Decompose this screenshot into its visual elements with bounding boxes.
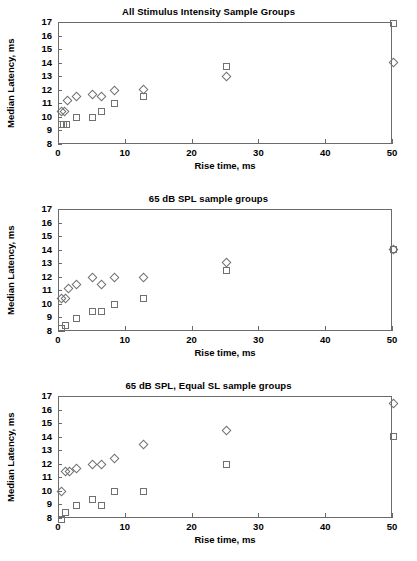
data-point-square: [89, 114, 96, 121]
data-point-square: [223, 267, 230, 274]
data-point-square: [98, 502, 105, 509]
data-point-diamond: [109, 453, 119, 463]
x-tick-label: 40: [311, 147, 339, 158]
x-tick-label: 30: [244, 334, 272, 345]
x-tick-mark: [392, 326, 393, 331]
data-point-square: [390, 433, 397, 440]
y-axis-label: Median Latency, ms: [2, 22, 18, 144]
y-tick-mark: [58, 277, 62, 278]
y-tick-mark: [58, 263, 62, 264]
data-point-square: [140, 295, 147, 302]
data-point-square: [89, 496, 96, 503]
x-tick-label: 20: [178, 147, 206, 158]
plot-wrapper: Median Latency, ms 891011121314151617 01…: [0, 374, 417, 561]
y-tick-mark: [58, 209, 62, 210]
y-tick-mark: [58, 63, 62, 64]
x-tick-mark: [58, 139, 59, 144]
data-point-square: [62, 322, 69, 329]
y-tick-mark: [58, 103, 62, 104]
y-tick-label: 15: [36, 43, 52, 54]
y-tick-label: 9: [36, 124, 52, 135]
x-tick-label: 30: [244, 521, 272, 532]
y-tick-label: 12: [36, 84, 52, 95]
y-tick-mark: [58, 49, 62, 50]
x-tick-label: 20: [178, 521, 206, 532]
y-tick-mark: [58, 410, 62, 411]
y-tick-label: 11: [36, 284, 52, 295]
data-point-diamond: [388, 399, 398, 409]
plot-area: [58, 22, 392, 144]
x-tick-label: 0: [44, 147, 72, 158]
x-tick-mark: [192, 513, 193, 518]
x-tick-label: 30: [244, 147, 272, 158]
x-tick-mark: [325, 326, 326, 331]
y-tick-label: 14: [36, 57, 52, 68]
y-tick-mark: [58, 317, 62, 318]
y-tick-mark: [58, 76, 62, 77]
data-point-diamond: [56, 487, 66, 497]
y-tick-label: 9: [36, 311, 52, 322]
data-point-square: [73, 114, 80, 121]
x-tick-label: 0: [44, 521, 72, 532]
plot-wrapper: Median Latency, ms 891011121314151617 01…: [0, 187, 417, 374]
data-point-square: [140, 93, 147, 100]
data-point-square: [73, 502, 80, 509]
data-point-square: [111, 301, 118, 308]
y-tick-mark: [58, 396, 62, 397]
y-tick-mark: [58, 130, 62, 131]
data-point-diamond: [97, 280, 107, 290]
x-tick-label: 10: [111, 147, 139, 158]
panel-0: All Stimulus Intensity Sample Groups Med…: [0, 0, 417, 187]
data-point-square: [223, 461, 230, 468]
x-tick-mark: [325, 513, 326, 518]
data-point-diamond: [138, 273, 148, 283]
x-tick-mark: [125, 326, 126, 331]
x-axis-label: Rise time, ms: [58, 534, 392, 545]
y-tick-label: 11: [36, 471, 52, 482]
x-tick-label: 20: [178, 334, 206, 345]
y-tick-label: 16: [36, 404, 52, 415]
y-tick-mark: [58, 331, 62, 332]
y-tick-mark: [58, 504, 62, 505]
y-tick-mark: [58, 304, 62, 305]
y-tick-mark: [58, 236, 62, 237]
y-tick-label: 17: [36, 390, 52, 401]
x-axis-label: Rise time, ms: [58, 347, 392, 358]
data-point-square: [89, 308, 96, 315]
data-point-square: [62, 509, 69, 516]
y-tick-label: 14: [36, 244, 52, 255]
x-tick-mark: [258, 513, 259, 518]
x-tick-label: 40: [311, 521, 339, 532]
y-tick-label: 13: [36, 257, 52, 268]
x-tick-label: 50: [378, 521, 406, 532]
panel-1: 65 dB SPL sample groups Median Latency, …: [0, 187, 417, 374]
data-point-square: [390, 246, 397, 253]
x-tick-mark: [258, 139, 259, 144]
y-tick-label: 13: [36, 444, 52, 455]
data-point-square: [390, 20, 397, 27]
plot-area: [58, 396, 392, 518]
y-tick-label: 16: [36, 30, 52, 41]
y-tick-mark: [58, 90, 62, 91]
x-tick-label: 0: [44, 334, 72, 345]
data-point-square: [98, 108, 105, 115]
data-point-square: [111, 100, 118, 107]
x-tick-mark: [192, 326, 193, 331]
x-tick-mark: [258, 326, 259, 331]
y-tick-label: 14: [36, 431, 52, 442]
data-point-square: [140, 488, 147, 495]
x-tick-mark: [125, 139, 126, 144]
x-tick-label: 40: [311, 334, 339, 345]
x-tick-mark: [392, 513, 393, 518]
data-point-square: [98, 308, 105, 315]
data-point-square: [111, 488, 118, 495]
y-axis-label: Median Latency, ms: [2, 396, 18, 518]
y-tick-label: 15: [36, 417, 52, 428]
x-tick-label: 50: [378, 334, 406, 345]
y-tick-mark: [58, 477, 62, 478]
y-tick-mark: [58, 36, 62, 37]
y-tick-label: 17: [36, 16, 52, 27]
plot-area: [58, 209, 392, 331]
x-tick-mark: [392, 139, 393, 144]
data-point-diamond: [138, 439, 148, 449]
